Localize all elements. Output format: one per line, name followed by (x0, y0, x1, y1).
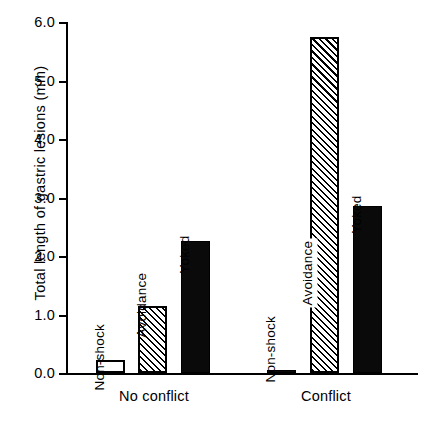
y-tick-label-0: 0.0 (34, 365, 55, 381)
y-tick-label-2: 2.0 (34, 248, 55, 264)
group-label-conflict: Conflict (256, 388, 396, 404)
y-tick-mark-6 (59, 22, 68, 24)
y-axis-title: Total length of gastric lesions (mm) (32, 13, 48, 353)
y-tick-mark-1 (59, 315, 68, 317)
y-tick-label-1: 1.0 (34, 307, 55, 323)
bar-conflict-avoidance (310, 37, 339, 373)
bar-label-no-conflict-non-shock: Non-shock (93, 324, 107, 390)
group-label-no-conflict: No conflict (84, 388, 224, 404)
y-tick-mark-0 (59, 373, 68, 375)
bar-label-conflict-yoked: Yoked (350, 195, 364, 233)
bar-label-conflict-avoidance: Avoidance (298, 239, 318, 308)
y-tick-label-5: 5.0 (34, 73, 55, 89)
y-tick-mark-2 (59, 256, 68, 258)
y-tick-label-4: 4.0 (34, 131, 55, 147)
y-tick-mark-4 (59, 139, 68, 141)
bar-label-no-conflict-avoidance: Avoidance (135, 273, 149, 338)
y-tick-mark-3 (59, 198, 68, 200)
gastric-lesions-bar-chart: Total length of gastric lesions (mm) 6.0… (0, 0, 426, 423)
y-tick-mark-5 (59, 81, 68, 83)
y-tick-label-6: 6.0 (34, 14, 55, 30)
bar-label-conflict-non-shock: Non-shock (264, 316, 278, 382)
plot-area: 6.0 5.0 4.0 3.0 2.0 1.0 0.0 (66, 22, 418, 373)
x-axis-line (66, 373, 418, 375)
y-tick-label-3: 3.0 (34, 190, 55, 206)
bar-label-no-conflict-yoked: Yoked (178, 235, 192, 273)
